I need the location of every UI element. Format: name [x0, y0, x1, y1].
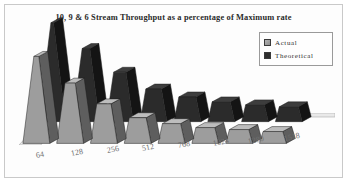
x-axis-label-64: 64 — [35, 150, 45, 160]
bar-theoretical-1280 — [242, 100, 278, 122]
bar-theoretical-768 — [174, 92, 210, 122]
chart-frame: 10, 9 & 6 Stream Throughput as a percent… — [4, 4, 343, 178]
bar-theoretical-1024 — [208, 97, 244, 122]
bar-actual-512 — [124, 113, 160, 144]
bar-theoretical-1518 — [275, 102, 311, 122]
plot-area: 10, 9 & 6 Stream Throughput as a percent… — [5, 5, 342, 177]
bars-layer — [5, 5, 342, 177]
